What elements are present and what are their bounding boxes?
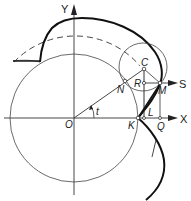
label-N: N xyxy=(117,84,125,95)
line-CM xyxy=(144,69,160,83)
point-L xyxy=(143,117,146,120)
y-axis-label: Y xyxy=(61,3,69,15)
point-Q xyxy=(159,117,162,120)
x-axis-label: X xyxy=(180,113,188,125)
label-K: K xyxy=(128,120,136,131)
label-C: C xyxy=(141,57,149,68)
geometry-diagram: Y X S t O C N R M K L Q xyxy=(0,0,191,201)
label-L: L xyxy=(148,107,154,118)
label-O: O xyxy=(65,119,73,130)
label-Q: Q xyxy=(157,121,165,132)
angle-label: t xyxy=(96,106,100,117)
point-R xyxy=(142,81,145,84)
x-axis-arrow-icon xyxy=(168,115,178,121)
s-ray-arrow-icon xyxy=(168,80,178,86)
tick-mark xyxy=(152,140,156,157)
point-N xyxy=(123,79,127,83)
label-M: M xyxy=(158,85,167,96)
label-R: R xyxy=(134,78,141,89)
s-ray-label: S xyxy=(179,78,186,90)
y-axis-arrow-icon xyxy=(71,4,77,15)
spiral-curve xyxy=(40,18,164,200)
point-K xyxy=(136,116,140,120)
